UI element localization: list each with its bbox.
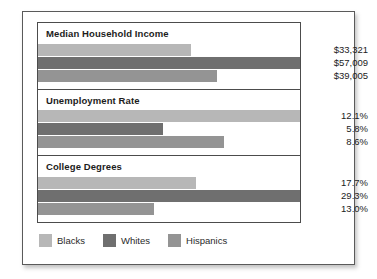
- bar-blacks: [38, 110, 300, 122]
- bar-row: 12.1%: [38, 110, 300, 122]
- chart-panel-median-household-income: Median Household Income $33,321 $57,009 …: [38, 23, 300, 89]
- panel-bars: 12.1% 5.8% 8.6%: [38, 110, 300, 155]
- bar-value-label: 8.6%: [306, 136, 368, 148]
- bar-row: 8.6%: [38, 136, 300, 148]
- chart-panel-unemployment-rate: Unemployment Rate 12.1% 5.8% 8.6%: [38, 89, 300, 156]
- bar-row: 17.7%: [38, 177, 300, 189]
- legend-swatch-icon: [103, 234, 116, 247]
- chart-figure: Median Household Income $33,321 $57,009 …: [22, 11, 355, 265]
- bar-value-label: $33,321: [306, 44, 368, 56]
- legend-label: Hispanics: [186, 234, 227, 247]
- bar-whites: [38, 57, 300, 69]
- bar-value-label: 13.0%: [306, 203, 368, 215]
- chart-legend: Blacks Whites Hispanics: [39, 234, 236, 247]
- bar-hispanics: [38, 70, 217, 82]
- bar-value-label: $57,009: [306, 57, 368, 69]
- bar-row: $33,321: [38, 44, 300, 56]
- panel-bars: $33,321 $57,009 $39,005: [38, 44, 300, 89]
- legend-item-whites: Whites: [103, 234, 150, 247]
- bar-value-label: 5.8%: [306, 123, 368, 135]
- legend-label: Blacks: [57, 234, 85, 247]
- chart-panel-group: Median Household Income $33,321 $57,009 …: [37, 22, 301, 223]
- bar-blacks: [38, 44, 191, 56]
- legend-item-blacks: Blacks: [39, 234, 85, 247]
- panel-title: College Degrees: [38, 156, 300, 177]
- bar-value-label: 17.7%: [306, 177, 368, 189]
- chart-panel-college-degrees: College Degrees 17.7% 29.3% 13.0%: [38, 155, 300, 222]
- bar-value-label: 12.1%: [306, 110, 368, 122]
- bar-value-label: 29.3%: [306, 190, 368, 202]
- legend-label: Whites: [121, 234, 150, 247]
- legend-swatch-icon: [168, 234, 181, 247]
- panel-title: Unemployment Rate: [38, 90, 300, 111]
- bar-hispanics: [38, 136, 224, 148]
- bar-value-label: $39,005: [306, 70, 368, 82]
- bar-whites: [38, 190, 300, 202]
- bar-hispanics: [38, 203, 154, 215]
- panel-title: Median Household Income: [38, 23, 300, 44]
- bar-row: $39,005: [38, 70, 300, 82]
- bar-row: 29.3%: [38, 190, 300, 202]
- bar-row: $57,009: [38, 57, 300, 69]
- bar-blacks: [38, 177, 196, 189]
- bar-row: 13.0%: [38, 203, 300, 215]
- bar-whites: [38, 123, 163, 135]
- legend-swatch-icon: [39, 234, 52, 247]
- legend-item-hispanics: Hispanics: [168, 234, 227, 247]
- panel-bars: 17.7% 29.3% 13.0%: [38, 177, 300, 222]
- bar-row: 5.8%: [38, 123, 300, 135]
